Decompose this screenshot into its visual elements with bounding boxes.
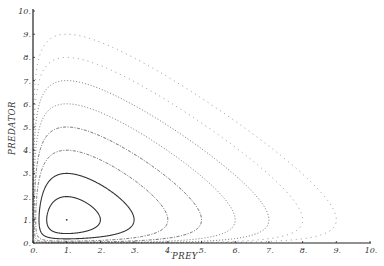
orbit-9 <box>33 34 336 243</box>
equilibrium-point <box>66 219 68 221</box>
x-tick-label: 10. <box>365 246 378 255</box>
x-axis-label: PREY <box>171 251 199 261</box>
x-tick-label: 0. <box>30 246 38 255</box>
orbit-7 <box>33 81 269 243</box>
y-tick-label: 6. <box>23 100 31 109</box>
y-tick-label: 9. <box>23 30 31 39</box>
orbit-8 <box>33 57 303 243</box>
y-tick-label: 2. <box>22 193 31 202</box>
y-tick-label: 5. <box>23 123 31 132</box>
x-tick-label: 8. <box>300 246 308 255</box>
x-tick-label: 3. <box>131 246 139 255</box>
y-tick-label: 4. <box>22 146 31 155</box>
x-tick-label: 9. <box>333 246 341 255</box>
orbit-3 <box>39 173 134 238</box>
phase-portrait-chart: 0.1.2.3.4.5.6.7.8.9.10. 0.1.2.3.4.5.6.7.… <box>0 0 384 266</box>
y-tick-label: 0. <box>23 239 31 248</box>
x-tick-label: 1. <box>64 246 72 255</box>
x-tick-label: 7. <box>266 246 274 255</box>
orbit-5 <box>34 127 201 242</box>
orbits-group <box>33 34 336 243</box>
y-tick-label: 3. <box>23 169 31 178</box>
y-tick-label: 10. <box>18 7 31 16</box>
y-axis-label: PREDATOR <box>7 101 17 156</box>
y-tick-label: 1. <box>23 216 31 225</box>
orbit-4 <box>36 150 168 241</box>
y-tick-label: 8. <box>23 53 31 62</box>
orbit-2 <box>47 197 101 234</box>
x-tick-label: 5. <box>199 246 207 255</box>
y-tick-label: 7. <box>23 77 31 86</box>
x-tick-label: 2. <box>97 246 106 255</box>
x-tick-label: 6. <box>232 246 240 255</box>
